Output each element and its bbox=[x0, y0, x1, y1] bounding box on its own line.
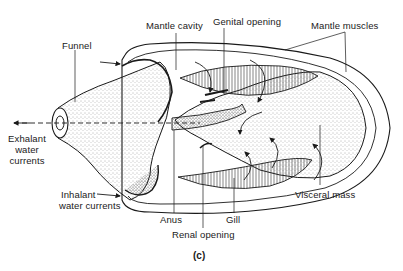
label-gill: Gill bbox=[226, 214, 240, 225]
label-mantle-cavity: Mantle cavity bbox=[146, 20, 203, 31]
diagram-figure: Mantle cavity Genital opening Mantle mus… bbox=[0, 0, 403, 271]
label-renal-opening: Renal opening bbox=[172, 229, 235, 240]
label-visceral-mass: Visceral mass bbox=[295, 189, 355, 200]
label-genital-opening: Genital opening bbox=[213, 16, 281, 27]
label-anus: Anus bbox=[160, 214, 182, 225]
label-inhalant-water-currents: Inhalant water currents bbox=[59, 189, 121, 211]
figure-caption: (c) bbox=[193, 250, 205, 261]
label-mantle-muscles: Mantle muscles bbox=[311, 20, 378, 31]
label-funnel: Funnel bbox=[62, 40, 92, 51]
label-exhalant-water-currents: Exhalant water currents bbox=[2, 133, 52, 166]
